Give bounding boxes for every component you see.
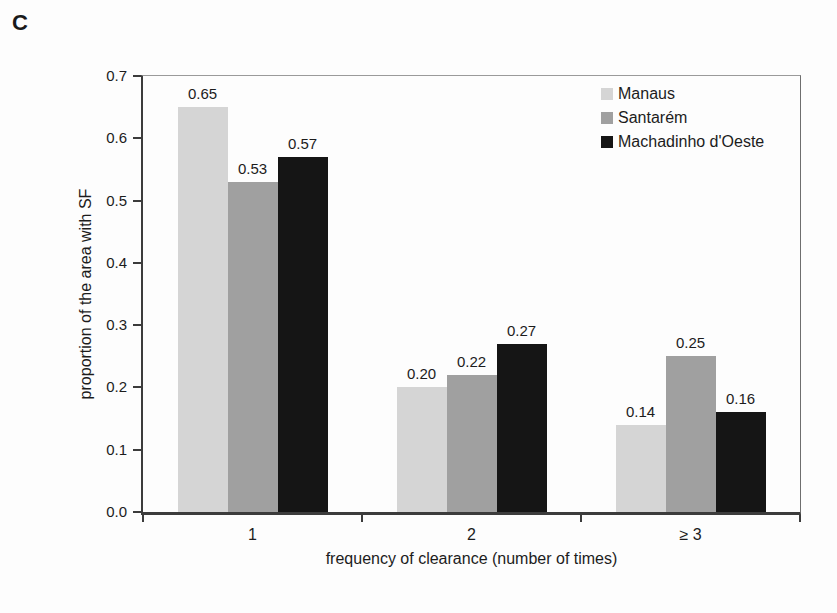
y-tick-label: 0.6 bbox=[91, 129, 127, 146]
y-axis-tick bbox=[133, 262, 141, 264]
bar-santar-m-1 bbox=[228, 182, 278, 512]
legend-label: Santarém bbox=[618, 109, 687, 127]
y-axis-tick bbox=[133, 137, 141, 139]
bar-manaus-3 bbox=[616, 425, 666, 512]
legend-item-manaus: Manaus bbox=[601, 82, 764, 106]
bar-manaus-2 bbox=[397, 387, 447, 512]
x-tick-label-1: 1 bbox=[213, 526, 293, 544]
y-axis-tick bbox=[133, 324, 141, 326]
value-label-santar-m-1: 0.53 bbox=[223, 160, 283, 177]
legend-item-santar-m: Santarém bbox=[601, 106, 764, 130]
x-axis-tick bbox=[142, 515, 144, 522]
y-tick-label: 0.5 bbox=[91, 192, 127, 209]
value-label-santar-m-2: 0.22 bbox=[442, 353, 502, 370]
y-tick-label: 0.1 bbox=[91, 441, 127, 458]
legend-label: Manaus bbox=[618, 85, 675, 103]
legend-label: Machadinho d'Oeste bbox=[618, 133, 764, 151]
value-label-machadinho-d-oeste-1: 0.57 bbox=[273, 135, 333, 152]
y-tick-label: 0.3 bbox=[91, 316, 127, 333]
y-axis-tick bbox=[133, 75, 141, 77]
y-axis-tick bbox=[133, 511, 141, 513]
panel-label: C bbox=[12, 10, 28, 36]
figure-panel: C proportion of the area with SF frequen… bbox=[0, 0, 837, 613]
value-label-machadinho-d-oeste-3: 0.16 bbox=[711, 390, 771, 407]
y-axis-tick bbox=[133, 449, 141, 451]
bar-machadinho-d-oeste-3 bbox=[716, 412, 766, 512]
bar-machadinho-d-oeste-1 bbox=[278, 157, 328, 512]
value-label-santar-m-3: 0.25 bbox=[661, 334, 721, 351]
y-axis-tick bbox=[133, 386, 141, 388]
legend-item-machadinho-d-oeste: Machadinho d'Oeste bbox=[601, 130, 764, 154]
legend-swatch-icon bbox=[601, 112, 613, 124]
legend-swatch-icon bbox=[601, 88, 613, 100]
y-tick-label: 0.0 bbox=[91, 503, 127, 520]
value-label-machadinho-d-oeste-2: 0.27 bbox=[492, 322, 552, 339]
plot-area: proportion of the area with SF frequency… bbox=[141, 75, 801, 515]
legend-swatch-icon bbox=[601, 136, 613, 148]
y-tick-label: 0.7 bbox=[91, 67, 127, 84]
x-axis-tick bbox=[580, 515, 582, 522]
bar-machadinho-d-oeste-2 bbox=[497, 344, 547, 512]
x-tick-label-3: ≥ 3 bbox=[651, 526, 731, 544]
value-label-manaus-3: 0.14 bbox=[611, 403, 671, 420]
x-axis-tick bbox=[799, 515, 801, 522]
value-label-manaus-1: 0.65 bbox=[173, 85, 233, 102]
x-axis-title: frequency of clearance (number of times) bbox=[143, 550, 800, 568]
y-axis-title: proportion of the area with SF bbox=[77, 189, 95, 400]
y-axis-tick bbox=[133, 200, 141, 202]
y-tick-label: 0.2 bbox=[91, 378, 127, 395]
bar-santar-m-3 bbox=[666, 356, 716, 512]
legend: ManausSantarémMachadinho d'Oeste bbox=[601, 82, 764, 154]
bar-santar-m-2 bbox=[447, 375, 497, 512]
x-tick-label-2: 2 bbox=[432, 526, 512, 544]
y-tick-label: 0.4 bbox=[91, 254, 127, 271]
x-axis-tick bbox=[361, 515, 363, 522]
bar-manaus-1 bbox=[178, 107, 228, 512]
